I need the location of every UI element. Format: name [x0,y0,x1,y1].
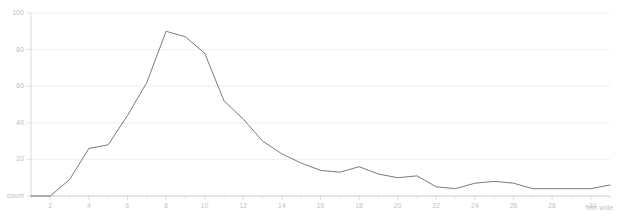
y-axis-tick-60: 60 [0,82,24,89]
y-axis-label-count: count [0,192,24,199]
x-axis-tick-20: 20 [387,202,409,209]
x-axis-tick-28: 28 [541,202,563,209]
y-axis-tick-80: 80 [0,46,24,53]
x-axis-tick-18: 18 [348,202,370,209]
x-axis-tick-4: 4 [78,202,100,209]
x-axis-tick-2: 2 [39,202,61,209]
data-line-count [31,31,610,196]
y-axis-tick-20: 20 [0,155,24,162]
gridlines [31,13,610,196]
histogram-chart: count20406080100 24681012141618202224262… [0,0,623,222]
x-axis-tick-6: 6 [117,202,139,209]
y-axis-ticks [27,13,31,196]
x-axis-tick-8: 8 [155,202,177,209]
x-axis-ticks [31,196,610,200]
x-axis-tick-12: 12 [232,202,254,209]
x-axis-tick-24: 24 [464,202,486,209]
y-axis-tick-40: 40 [0,119,24,126]
x-axis-tick-16: 16 [310,202,332,209]
chart-canvas [0,0,623,222]
x-axis-tick-22: 22 [425,202,447,209]
x-axis-tick-26: 26 [503,202,525,209]
x-axis-tick-10: 10 [194,202,216,209]
y-axis-tick-100: 100 [0,9,24,16]
x-axis-title: mm wide [586,204,613,211]
x-axis-tick-14: 14 [271,202,293,209]
